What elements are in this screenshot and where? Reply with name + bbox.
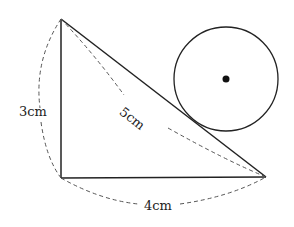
bottom-dimension-arc-right bbox=[180, 177, 266, 204]
bottom-dimension-arc bbox=[61, 178, 138, 204]
hypotenuse-edge bbox=[61, 19, 266, 177]
diagram-canvas: 3cm 5cm 4cm bbox=[0, 0, 294, 227]
left-dimension-arc bbox=[39, 19, 61, 108]
left-side-label: 3cm bbox=[19, 104, 47, 119]
bottom-side-edge bbox=[61, 177, 266, 178]
left-dimension-arc-lower bbox=[41, 122, 61, 178]
hypotenuse-dimension-arc bbox=[61, 19, 124, 95]
bottom-side-label: 4cm bbox=[144, 198, 172, 213]
hypotenuse-dimension-arc-lower bbox=[168, 128, 266, 177]
circle-center-dot bbox=[223, 76, 230, 83]
